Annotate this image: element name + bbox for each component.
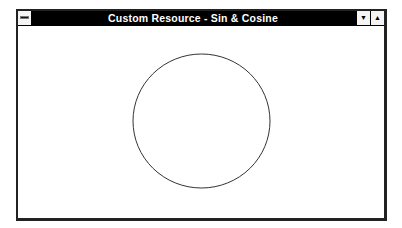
system-menu-button[interactable] (18, 11, 32, 25)
app-window: Custom Resource - Sin & Cosine ▼ ▲ (16, 9, 387, 221)
minimize-icon: ▼ (360, 14, 367, 21)
drawing-canvas (18, 26, 384, 218)
title-bar[interactable]: Custom Resource - Sin & Cosine ▼ ▲ (18, 11, 384, 26)
maximize-button[interactable]: ▲ (370, 11, 384, 25)
client-area (18, 26, 384, 218)
circle-figure (133, 54, 270, 188)
minimize-button[interactable]: ▼ (356, 11, 370, 25)
window-title: Custom Resource - Sin & Cosine (34, 11, 352, 25)
system-menu-icon (20, 16, 29, 19)
maximize-icon: ▲ (374, 14, 381, 21)
